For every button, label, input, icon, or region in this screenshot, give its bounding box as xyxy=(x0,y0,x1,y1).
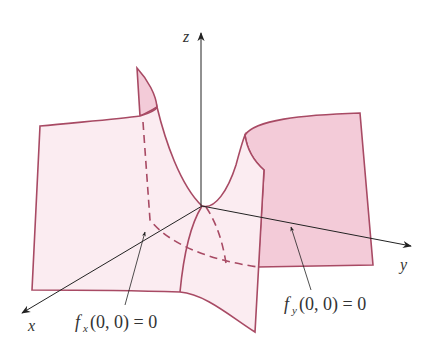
surface-left-tip xyxy=(137,68,157,116)
fx-args: (0, 0) = 0 xyxy=(90,312,157,333)
y-axis-label: y xyxy=(398,256,408,274)
fy-sub: y xyxy=(291,304,297,316)
fx-func: f xyxy=(75,312,83,332)
fy-args: (0, 0) = 0 xyxy=(299,294,366,315)
x-axis-label: x xyxy=(27,317,35,334)
fx-annotation: f x (0, 0) = 0 xyxy=(75,312,157,334)
saddle-diagram: z x y f x (0, 0) = 0 f y (0, 0) = 0 xyxy=(0,0,443,354)
surface-right-panel xyxy=(245,113,373,267)
fy-annotation: f y (0, 0) = 0 xyxy=(284,294,366,316)
z-axis-label: z xyxy=(182,28,190,45)
surface-main xyxy=(32,107,264,332)
fy-func: f xyxy=(284,294,292,314)
fx-sub: x xyxy=(82,322,88,334)
